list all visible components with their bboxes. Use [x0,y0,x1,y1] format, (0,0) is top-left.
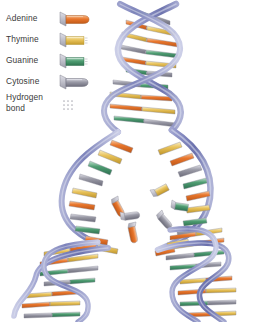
dna-artwork [0,0,261,322]
dna-replication-figure: Adenine Thymin [0,0,261,322]
free-nucleotide-thymine-1 [150,182,169,198]
free-nucleotides [110,182,189,243]
daughter-helix-left [14,242,108,322]
free-nucleotide-guanine-1 [171,200,189,211]
top-helix-hydrogen-bonds [139,15,148,123]
parent-double-helix [104,4,181,132]
bubble-left-unpaired-bases [69,140,133,254]
free-nucleotide-adenine-2 [127,222,140,243]
